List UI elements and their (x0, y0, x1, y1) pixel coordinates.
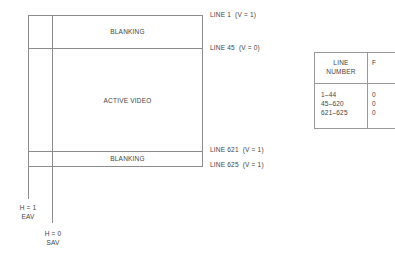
table-cell-line-number: 45–620 (321, 100, 344, 107)
table-header-line-number-1: LINE (315, 59, 367, 66)
top-blanking-label: BLANKING (53, 28, 202, 35)
table-cell-line-number: 621–625 (321, 109, 348, 116)
line-45-divider (28, 48, 203, 49)
active-video-label: ACTIVE VIDEO (53, 97, 202, 104)
table-header-divider (315, 83, 395, 84)
line-621-label: LINE 621 (V = 1) (210, 146, 264, 153)
frame-right-edge (202, 15, 203, 167)
bottom-blanking-label: BLANKING (53, 155, 202, 162)
eav-line (28, 15, 29, 199)
line-number-table: LINE NUMBER F 1–44 0 45–620 0 621–625 0 (314, 52, 395, 129)
frame-bottom-edge (28, 166, 203, 167)
sav-label: SAV (35, 239, 71, 246)
table-column-divider (367, 53, 368, 128)
table-cell-f: 0 (372, 91, 376, 98)
line-1-label: LINE 1 (V = 1) (210, 11, 256, 18)
eav-label: EAV (10, 213, 46, 220)
line-625-label: LINE 625 (V = 1) (210, 161, 264, 168)
table-cell-f: 0 (372, 100, 376, 107)
table-header-f: F (372, 59, 376, 66)
eav-h-value: H = 1 (10, 204, 46, 211)
line-45-label: LINE 45 (V = 0) (210, 44, 260, 51)
table-header-line-number-2: NUMBER (315, 68, 367, 75)
line-621-divider (28, 151, 203, 152)
sav-line (52, 15, 53, 223)
table-cell-line-number: 1–44 (321, 91, 336, 98)
table-cell-f: 0 (372, 109, 376, 116)
sav-h-value: H = 0 (35, 230, 71, 237)
frame-top-edge (28, 15, 203, 16)
